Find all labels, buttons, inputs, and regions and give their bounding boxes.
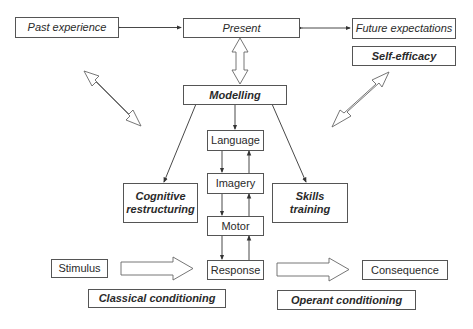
language-node: Language — [207, 130, 264, 151]
classical-conditioning-label: Classical conditioning — [88, 289, 226, 308]
skills-training-line1: Skills — [296, 190, 325, 203]
modelling-to-cognitive-arrow — [164, 104, 196, 182]
skills-training-node: Skills training — [272, 183, 348, 223]
cognitive-restructuring-line2: restructuring — [126, 203, 194, 216]
future-expectations-node: Future expectations — [352, 18, 456, 39]
past-experience-node: Past experience — [15, 17, 119, 38]
modelling-to-skills-arrow — [272, 104, 306, 182]
skills-training-line2: training — [290, 203, 330, 216]
response-node: Response — [207, 260, 264, 280]
response-consequence-block-arrow — [277, 258, 349, 281]
imagery-node: Imagery — [207, 173, 264, 194]
cognitive-restructuring-node: Cognitive restructuring — [123, 183, 198, 223]
consequence-node: Consequence — [362, 260, 448, 280]
self-efficacy-node: Self-efficacy — [352, 46, 456, 66]
motor-node: Motor — [207, 216, 264, 236]
stimulus-node: Stimulus — [51, 259, 108, 278]
present-node: Present — [183, 18, 300, 38]
cognitive-restructuring-line1: Cognitive — [135, 190, 185, 203]
present-modelling-block-arrow — [232, 38, 248, 84]
stimulus-response-block-arrow — [121, 257, 193, 280]
modelling-node: Modelling — [183, 85, 287, 105]
right-diagonal-block-arrow — [332, 72, 389, 127]
left-diagonal-block-arrow — [84, 71, 141, 126]
operant-conditioning-label: Operant conditioning — [277, 290, 416, 310]
